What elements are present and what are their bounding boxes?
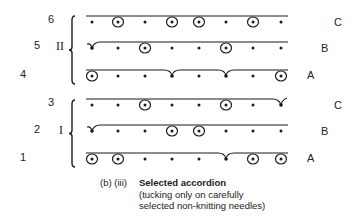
course-label-B-top: B — [321, 43, 328, 54]
needle-dot — [198, 130, 201, 133]
needle-dot — [144, 47, 147, 50]
needle-dot — [117, 75, 120, 78]
needle-dot — [171, 104, 174, 107]
needle-dot — [91, 75, 94, 78]
tuck-needle-dot — [279, 103, 283, 107]
needle-dot — [225, 47, 228, 50]
yarn-course-row-4 — [86, 70, 288, 76]
needle-dot — [280, 75, 283, 78]
needle-dot — [280, 47, 283, 50]
needle-dot — [91, 158, 94, 161]
needle-dot — [91, 21, 94, 24]
row-number-5: 5 — [34, 40, 40, 51]
needle-dot — [144, 130, 147, 133]
row-number-2: 2 — [34, 124, 40, 135]
needle-dot — [280, 158, 283, 161]
needle-dot — [252, 158, 255, 161]
needle-dot — [280, 21, 283, 24]
course-label-A-bottom: A — [307, 153, 314, 164]
row-number-4: 4 — [20, 69, 26, 80]
needle-dot — [171, 158, 174, 161]
needle-dot — [225, 21, 228, 24]
needle-dot — [144, 75, 147, 78]
needle-dot — [252, 21, 255, 24]
needle-dot — [91, 104, 94, 107]
tuck-needle-dot — [170, 74, 174, 78]
needle-dot — [252, 130, 255, 133]
caption-title: Selected accordion — [139, 177, 226, 188]
needle-dot — [252, 104, 255, 107]
tuck-needle-dot — [90, 46, 94, 50]
row-number-1: 1 — [20, 152, 26, 163]
needle-dot — [117, 104, 120, 107]
row-number-3: 3 — [48, 97, 54, 108]
needle-dot — [117, 158, 120, 161]
group-label-II: II — [56, 40, 64, 52]
course-label-B-bottom: B — [321, 126, 328, 137]
needle-dot — [198, 104, 201, 107]
needle-dot — [117, 130, 120, 133]
row-number-6: 6 — [48, 14, 54, 25]
needle-dot — [171, 130, 174, 133]
tuck-needle-dot — [224, 157, 228, 161]
needle-dot — [117, 47, 120, 50]
caption-line-3: selected non-knitting needles) — [100, 200, 265, 212]
needle-dot — [252, 47, 255, 50]
needle-dot — [198, 158, 201, 161]
needle-dot — [144, 158, 147, 161]
needle-dot — [252, 75, 255, 78]
needle-dot — [198, 47, 201, 50]
needle-dot — [198, 21, 201, 24]
caption-line-2: (tucking only on carefully — [100, 189, 265, 201]
needle-dot — [225, 130, 228, 133]
group-label-I: I — [59, 124, 63, 136]
needle-dot — [198, 75, 201, 78]
needle-dot — [171, 47, 174, 50]
course-label-C-bottom: C — [334, 100, 342, 111]
needle-dot — [117, 21, 120, 24]
course-label-A-top: A — [307, 70, 314, 81]
figure-caption: (b) (iii)Selected accordion (tucking onl… — [100, 177, 265, 212]
needle-dot — [280, 130, 283, 133]
needle-dot — [225, 104, 228, 107]
needle-dot — [144, 21, 147, 24]
tuck-needle-dot — [224, 74, 228, 78]
caption-prefix: (b) (iii) — [100, 177, 139, 189]
course-label-C-top: C — [334, 17, 342, 28]
brace-group-I — [69, 100, 75, 167]
needle-dot — [171, 21, 174, 24]
needle-dot — [144, 104, 147, 107]
tuck-needle-dot — [90, 129, 94, 133]
yarn-course-row-3 — [86, 98, 287, 105]
brace-group-II — [69, 16, 75, 84]
